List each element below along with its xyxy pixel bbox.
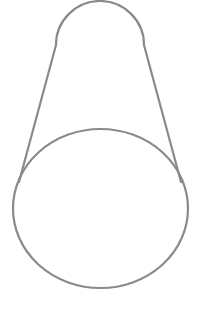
cone-outline <box>19 1 181 182</box>
cone-base-ellipse <box>13 129 188 288</box>
diagram-canvas <box>0 0 200 310</box>
cone-diagram <box>0 0 200 310</box>
